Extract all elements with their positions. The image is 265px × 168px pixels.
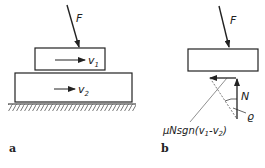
- normal-label: N: [241, 90, 249, 103]
- friction-label: μNsgn(v1-v2): [162, 125, 227, 138]
- angle-leader: [233, 108, 246, 113]
- caption-b: b: [161, 142, 169, 155]
- caption-a: a: [9, 142, 16, 155]
- friction-diagram: F v1 v2 a F N ϱ μNsgn(v1-v2) b: [0, 0, 265, 168]
- friction-leader: [190, 78, 227, 122]
- force-arrow-b: [219, 6, 229, 47]
- panel-b: F N ϱ μNsgn(v1-v2) b: [161, 6, 258, 155]
- force-label-a: F: [76, 12, 83, 25]
- panel-a: F v1 v2 a: [8, 5, 136, 155]
- force-label-b: F: [230, 14, 237, 27]
- angle-label: ϱ: [247, 110, 254, 123]
- lower-block: [15, 73, 132, 102]
- angle-arc: [225, 99, 237, 101]
- free-body-block: [188, 49, 258, 71]
- ground-hatching: [8, 104, 136, 111]
